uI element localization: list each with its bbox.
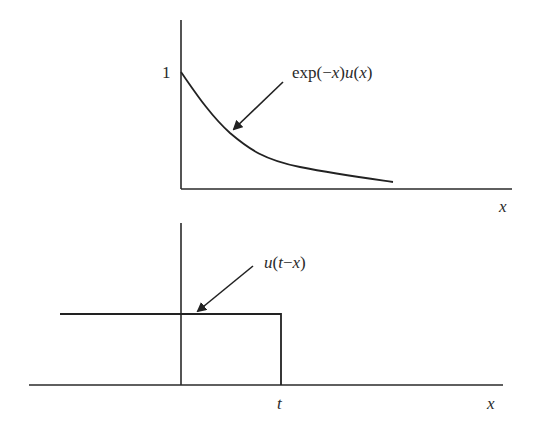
step-pointer-arrow-icon bbox=[198, 266, 253, 311]
exp-pointer-arrow-icon bbox=[234, 82, 283, 129]
top-panel: 1 exp(−x)u(x) x bbox=[162, 20, 512, 216]
exp-curve-label: exp(−x)u(x) bbox=[292, 63, 372, 82]
exp-decay-curve bbox=[181, 72, 393, 182]
bottom-panel: u(t−x) t x bbox=[29, 223, 503, 413]
convolution-diagram: 1 exp(−x)u(x) x u(t−x) t x bbox=[0, 0, 542, 435]
top-x-axis-label: x bbox=[498, 197, 507, 216]
step-curve-label: u(t−x) bbox=[264, 253, 306, 272]
bottom-x-axis-label: x bbox=[486, 394, 495, 413]
step-function-curve bbox=[60, 314, 281, 385]
t-tick-label: t bbox=[277, 394, 283, 413]
y-tick-label-one: 1 bbox=[162, 63, 171, 82]
